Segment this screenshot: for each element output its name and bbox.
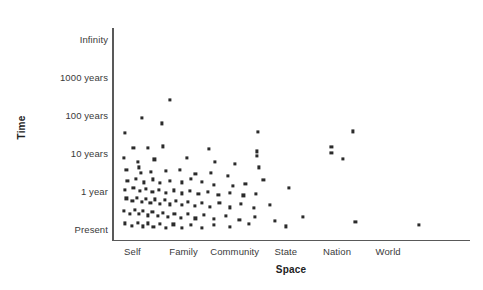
data-point <box>354 220 357 223</box>
data-point <box>287 187 290 190</box>
data-point <box>151 210 154 213</box>
data-point <box>255 150 258 153</box>
y-axis-title: Time <box>16 98 27 158</box>
y-axis-line <box>112 28 114 241</box>
data-point <box>169 179 172 182</box>
data-point <box>200 201 203 204</box>
data-point <box>146 222 149 225</box>
data-point <box>132 186 135 189</box>
data-point <box>141 225 144 228</box>
data-point <box>128 212 131 215</box>
data-point <box>200 180 203 183</box>
data-point <box>224 214 227 217</box>
data-point <box>213 160 216 163</box>
data-point <box>131 199 134 202</box>
data-point <box>194 172 197 175</box>
data-point <box>194 217 197 220</box>
data-point <box>125 197 128 200</box>
data-point <box>197 192 200 195</box>
data-point <box>124 188 127 191</box>
data-point <box>133 208 136 211</box>
data-point <box>167 215 170 218</box>
x-tick-label-self: Self <box>124 246 141 257</box>
data-point <box>284 225 287 228</box>
data-point <box>247 223 250 226</box>
data-point <box>255 154 258 157</box>
data-point <box>330 151 333 154</box>
data-point <box>213 183 216 186</box>
data-point <box>234 163 237 166</box>
data-point <box>242 194 245 197</box>
data-point <box>178 168 181 171</box>
x-tick-label-state: State <box>275 246 298 257</box>
data-point <box>144 197 147 200</box>
data-point <box>213 224 216 227</box>
data-point <box>188 190 191 193</box>
data-point <box>200 227 203 230</box>
x-axis-title: Space <box>231 264 351 275</box>
data-point <box>130 224 133 227</box>
data-point <box>301 216 304 219</box>
data-point <box>126 179 129 182</box>
data-point <box>330 146 333 149</box>
data-point <box>158 223 161 226</box>
data-point <box>185 157 188 160</box>
data-point <box>132 146 135 149</box>
data-point <box>255 192 258 195</box>
data-point <box>226 174 229 177</box>
data-point <box>180 192 183 195</box>
data-point <box>135 196 138 199</box>
data-point <box>153 198 156 201</box>
data-point <box>165 169 168 172</box>
data-point <box>142 210 145 213</box>
data-point <box>136 160 139 163</box>
data-point <box>202 213 205 216</box>
data-point <box>172 189 175 192</box>
data-point <box>218 202 221 205</box>
data-point <box>138 213 141 216</box>
data-point <box>138 166 141 169</box>
data-point <box>180 181 183 184</box>
data-point <box>124 222 127 225</box>
data-point <box>136 221 139 224</box>
data-point <box>143 181 146 184</box>
data-point <box>163 199 166 202</box>
data-point <box>165 226 168 229</box>
data-point <box>134 177 137 180</box>
data-point <box>122 157 125 160</box>
data-point <box>187 200 190 203</box>
x-tick-label-nation: Nation <box>323 246 351 257</box>
data-point <box>153 158 156 161</box>
data-point <box>161 211 164 214</box>
data-point <box>417 224 420 227</box>
data-point <box>138 190 141 193</box>
data-point <box>139 171 142 174</box>
y-tick-label-infinity: Infinity <box>8 34 108 45</box>
data-point <box>140 116 143 119</box>
data-point <box>209 205 212 208</box>
data-point <box>147 146 150 149</box>
x-tick-label-world: World <box>376 246 401 257</box>
data-point <box>207 148 210 151</box>
data-point <box>210 171 213 174</box>
data-point <box>229 191 232 194</box>
data-point <box>158 202 161 205</box>
data-point <box>342 157 345 160</box>
scatter-chart: Present1 year10 years100 years1000 years… <box>0 0 483 290</box>
data-point <box>149 170 152 173</box>
data-point <box>152 226 155 229</box>
data-point <box>239 202 242 205</box>
data-point <box>189 223 192 226</box>
data-point <box>149 201 152 204</box>
data-point <box>351 130 354 133</box>
data-point <box>156 215 159 218</box>
data-point <box>254 215 257 218</box>
data-point <box>123 132 126 135</box>
data-point <box>180 226 183 229</box>
data-point <box>228 206 231 209</box>
data-point <box>213 218 216 221</box>
data-point <box>206 190 209 193</box>
data-point <box>273 219 276 222</box>
data-point <box>193 204 196 207</box>
data-point <box>174 199 177 202</box>
